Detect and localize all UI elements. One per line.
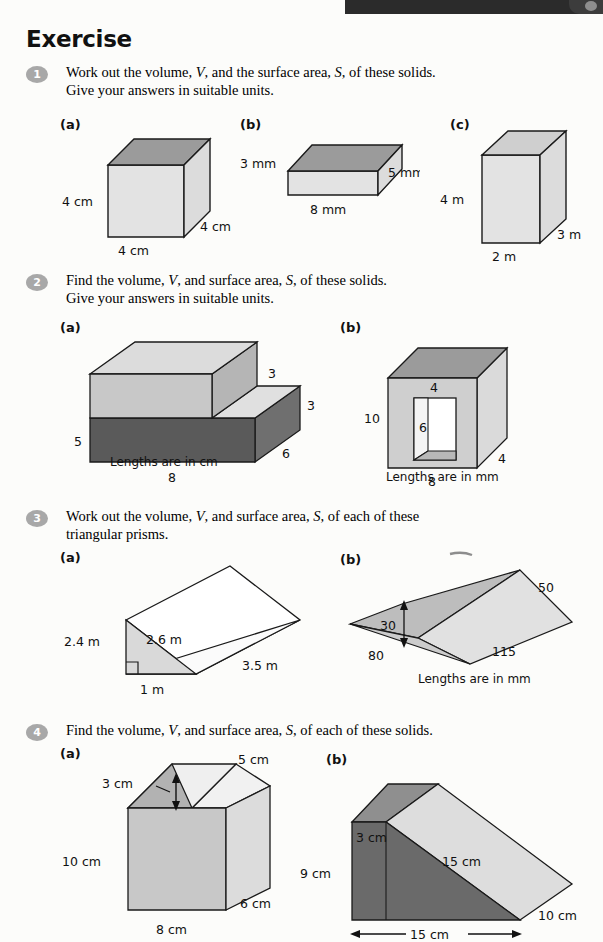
page-header-tab [569, 0, 603, 14]
part-label-1c: (c) [450, 117, 470, 132]
question-number-3: 3 [26, 510, 48, 527]
base-arrow-head-left [350, 930, 360, 938]
part-label-4a: (a) [60, 746, 81, 761]
label-1c-width: 2 m [492, 249, 516, 264]
figure-4b: (b) 3 cm 9 cm 15 cm 10 cm 15 cm [300, 742, 600, 942]
label-2a-step-right: 3 [307, 398, 315, 413]
part-label-1a: (a) [60, 117, 81, 132]
base-arrow-head-right [512, 930, 522, 938]
label-1b-depth: 5 mm [388, 165, 420, 180]
label-4a-wall-height: 10 cm [62, 854, 101, 869]
part-label-3b: (b) [340, 552, 361, 567]
label-2a-left-height: 5 [74, 434, 82, 449]
part-label-2a: (a) [60, 320, 81, 335]
label-4b-base: 15 cm [410, 927, 449, 940]
question-number-4: 4 [26, 724, 48, 741]
caption-2a: Lengths are in cm [110, 455, 218, 469]
part-label-2b: (b) [340, 320, 361, 335]
page-title: Exercise [26, 26, 132, 52]
figure-1c-svg: (c) 4 m 2 m 3 m [420, 115, 595, 265]
label-3a-length: 3.5 m [242, 658, 278, 673]
page-header-band [345, 0, 603, 14]
question-4-line-1: Find the volume, V, and surface area, S,… [66, 722, 586, 740]
question-4-text: Find the volume, V, and surface area, S,… [66, 722, 586, 740]
label-3b-apex-height: 30 [380, 618, 396, 633]
label-1b-width: 8 mm [310, 202, 346, 217]
cuboid-b-front-face [288, 171, 378, 195]
figure-3a-svg: (a) 2.4 m 2.6 m 3.5 m 1 m [60, 548, 340, 696]
figure-1b-svg: (b) 3 mm 8 mm 5 mm [240, 115, 420, 230]
label-1a-width: 4 cm [118, 243, 149, 258]
question-1-line-1: Work out the volume, V, and the surface … [66, 64, 586, 82]
figure-2b: (b) 10 4 6 8 4 [340, 318, 590, 492]
cube-front-face [108, 165, 184, 237]
figure-3a: (a) 2.4 m 2.6 m 3.5 m 1 m [60, 548, 340, 700]
question-number-2: 2 [26, 274, 48, 291]
question-2-text: Find the volume, V, and surface area, S,… [66, 272, 586, 307]
label-2b-height: 10 [364, 411, 380, 426]
label-3b-length: 115 [492, 644, 516, 659]
question-3-text: Work out the volume, V, and surface area… [66, 508, 586, 543]
figure-3b-svg: (b) 30 50 80 115 [340, 548, 595, 688]
label-3a-height: 2.4 m [64, 634, 100, 649]
label-1a-depth: 4 cm [200, 219, 231, 234]
question-2-line-2: Give your answers in suitable units. [66, 290, 586, 308]
caption-3b: Lengths are in mm [418, 672, 531, 686]
decorative-dash [450, 553, 472, 555]
label-1a-height: 4 cm [62, 194, 93, 209]
label-1b-height: 3 mm [240, 156, 276, 171]
label-1c-height: 4 m [440, 192, 464, 207]
label-2a-base-width: 8 [168, 470, 176, 485]
label-4a-ridge: 5 cm [238, 752, 269, 767]
question-1-text: Work out the volume, V, and the surface … [66, 64, 586, 99]
label-2a-step-top: 3 [268, 366, 276, 381]
question-2-line-1: Find the volume, V, and surface area, S,… [66, 272, 586, 290]
label-2a-depth: 6 [282, 446, 290, 461]
question-4: 4 Find the volume, V, and surface area, … [26, 722, 586, 740]
label-4b-top-height: 3 cm [356, 830, 387, 845]
part-label-4b: (b) [326, 752, 347, 767]
house-wall-right-face [226, 786, 270, 910]
question-3-line-1: Work out the volume, V, and surface area… [66, 508, 586, 526]
page-header-dot-icon [585, 1, 597, 11]
caption-2b: Lengths are in mm [386, 470, 499, 484]
figure-2b-svg: (b) 10 4 6 8 4 [340, 318, 590, 488]
figure-4a: (a) 5 cm 3 cm 10 cm 6 cm 8 cm [60, 742, 320, 942]
label-3a-hypotenuse: 2.6 m [146, 632, 182, 647]
question-1-line-2: Give your answers in suitable units. [66, 82, 586, 100]
figure-1a-svg: (a) 4 cm 4 cm 4 cm [60, 115, 240, 260]
label-2b-depth: 4 [498, 451, 506, 466]
figure-1a: (a) 4 cm 4 cm 4 cm [60, 115, 240, 264]
house-wall-front-face [128, 808, 226, 910]
question-number-1: 1 [26, 66, 48, 83]
question-3: 3 Work out the volume, V, and surface ar… [26, 508, 586, 543]
label-4a-roof-height: 3 cm [102, 776, 133, 791]
label-4b-slope: 15 cm [442, 854, 481, 869]
figure-1c: (c) 4 m 2 m 3 m [420, 115, 595, 269]
figure-4b-svg: (b) 3 cm 9 cm 15 cm 10 cm 15 cm [300, 742, 600, 940]
label-3b-slant: 50 [538, 580, 554, 595]
step-prism-upper-front-face [90, 374, 212, 418]
label-4a-depth: 6 cm [240, 896, 271, 911]
figure-1b: (b) 3 mm 8 mm 5 mm [240, 115, 420, 234]
part-label-1b: (b) [240, 117, 261, 132]
part-label-3a: (a) [60, 550, 81, 565]
question-2: 2 Find the volume, V, and surface area, … [26, 272, 586, 307]
cuboid-c-front-face [482, 155, 540, 243]
label-4a-width: 8 cm [156, 922, 187, 937]
question-1: 1 Work out the volume, V, and the surfac… [26, 64, 586, 99]
label-1c-depth: 3 m [557, 227, 581, 242]
label-2b-hole-height: 6 [419, 420, 427, 435]
label-3b-base-width: 80 [368, 648, 384, 663]
question-3-line-2: triangular prisms. [66, 526, 586, 544]
label-4b-depth: 10 cm [538, 908, 577, 923]
label-2b-hole-width: 4 [430, 380, 438, 395]
figure-4a-svg: (a) 5 cm 3 cm 10 cm 6 cm 8 cm [60, 742, 320, 940]
figure-3b: (b) 30 50 80 115 [340, 548, 595, 692]
label-3a-base: 1 m [140, 682, 164, 696]
textbook-page: Exercise 1 Work out the volume, V, and t… [0, 0, 603, 942]
label-4b-front-height: 9 cm [300, 866, 331, 881]
